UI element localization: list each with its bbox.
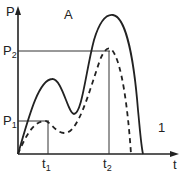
solid-curve (18, 15, 143, 154)
x-axis-label: t (173, 158, 177, 171)
p2-label-sub: 2 (12, 50, 17, 60)
p2-label-base: P (3, 43, 12, 58)
p1-label-base: P (3, 113, 12, 128)
t2-label-sub: 2 (107, 163, 112, 171)
t2-label: t2 (103, 157, 112, 171)
panel-label: A (64, 8, 73, 21)
curve-label: 1 (158, 121, 165, 134)
y-axis-arrow-icon (15, 6, 21, 15)
pressure-time-diagram (0, 0, 184, 171)
t1-label: t1 (42, 157, 51, 171)
y-axis-label: P (6, 5, 15, 18)
p2-label: P2 (3, 44, 17, 60)
t1-label-sub: 1 (46, 163, 51, 171)
p1-label: P1 (3, 114, 17, 130)
p1-label-sub: 1 (12, 120, 17, 130)
